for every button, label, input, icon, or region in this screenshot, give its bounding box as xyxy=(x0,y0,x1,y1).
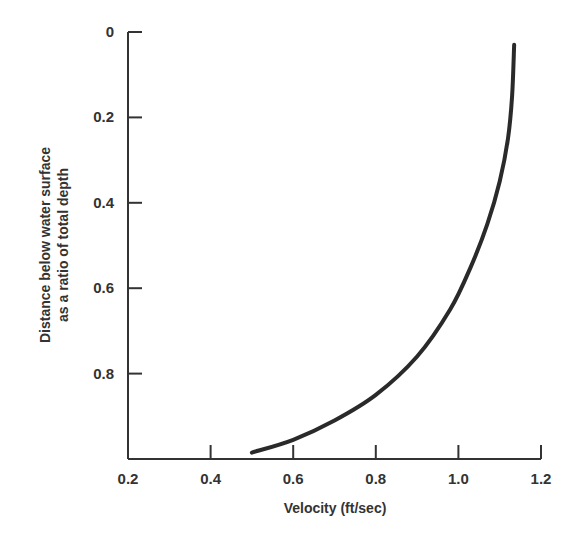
y-axis-title-line2: as a ratio of total depth xyxy=(55,168,71,322)
x-tick-label: 0.2 xyxy=(118,470,139,487)
y-tick-label: 0 xyxy=(106,23,114,40)
y-tick-label: 0.8 xyxy=(93,365,114,382)
x-tick-label: 1.2 xyxy=(531,470,552,487)
y-tick-label: 0.4 xyxy=(93,194,115,211)
velocity-profile-curve xyxy=(252,45,514,453)
x-tick-label: 1.0 xyxy=(448,470,469,487)
x-tick-label: 0.6 xyxy=(283,470,304,487)
velocity-depth-chart: 00.20.40.60.80.20.40.60.81.01.2 Velocity… xyxy=(0,0,581,547)
y-tick-label: 0.2 xyxy=(93,108,114,125)
x-axis-title: Velocity (ft/sec) xyxy=(284,500,387,516)
x-tick-label: 0.4 xyxy=(200,470,222,487)
y-axis-title-line1: Distance below water surface xyxy=(37,147,53,343)
y-tick-label: 0.6 xyxy=(93,279,114,296)
x-tick-label: 0.8 xyxy=(365,470,386,487)
axes: 00.20.40.60.80.20.40.60.81.01.2 xyxy=(93,23,551,487)
